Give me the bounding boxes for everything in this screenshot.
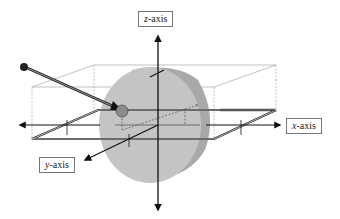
coordinate-diagram (0, 0, 340, 219)
x-axis-suffix: -axis (296, 120, 315, 131)
probe-target-ball (116, 105, 128, 117)
y-axis-label: y-axis (39, 157, 75, 173)
z-axis-label: z-axis (138, 11, 173, 27)
y-axis-suffix: -axis (49, 159, 68, 170)
probe-base-ball (20, 63, 28, 71)
z-axis-suffix: -axis (148, 13, 167, 24)
x-axis-label: x-axis (286, 118, 322, 134)
